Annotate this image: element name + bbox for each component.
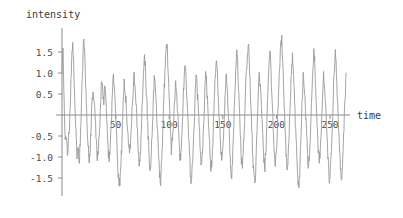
y-tick-label: -0.5 [30, 131, 53, 142]
chart-canvas: -1.5-1.0-0.50.51.01.5 50100150200250 int… [0, 0, 403, 218]
y-axis-tick-labels: -1.5-1.0-0.50.51.01.5 [30, 47, 53, 184]
y-tick-label: -1.5 [30, 173, 53, 184]
x-tick-label: 200 [268, 119, 285, 130]
intensity-vs-time-plot: -1.5-1.0-0.50.51.01.5 50100150200250 int… [0, 0, 403, 218]
x-axis-title: time [357, 110, 381, 121]
y-axis-title: intensity [26, 9, 80, 20]
x-tick-label: 250 [321, 119, 338, 130]
y-tick-label: 1.5 [36, 47, 53, 58]
y-tick-label: -1.0 [30, 152, 53, 163]
intensity-series-line [62, 35, 346, 188]
y-tick-label: 1.0 [36, 68, 53, 79]
y-tick-label: 0.5 [36, 89, 53, 100]
y-axis-group: -1.5-1.0-0.50.51.01.5 [30, 28, 62, 196]
